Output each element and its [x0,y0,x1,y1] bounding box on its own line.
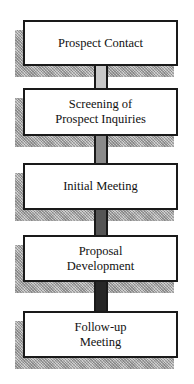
step-screening: Screening of Prospect Inquiries [23,88,178,136]
step-label: Proposal Development [67,244,134,274]
step-label: Screening of Prospect Inquiries [55,97,146,127]
connector-1 [94,66,108,88]
step-follow-up-meeting: Follow-up Meeting [23,311,178,358]
step-prospect-contact: Prospect Contact [23,20,178,66]
step-initial-meeting: Initial Meeting [23,163,178,210]
step-label: Initial Meeting [63,179,138,194]
step-label: Prospect Contact [58,36,143,51]
step-proposal-development: Proposal Development [23,235,178,282]
connector-2 [94,136,108,163]
connector-3 [94,210,108,235]
step-label: Follow-up Meeting [74,320,126,350]
connector-4 [94,282,108,311]
